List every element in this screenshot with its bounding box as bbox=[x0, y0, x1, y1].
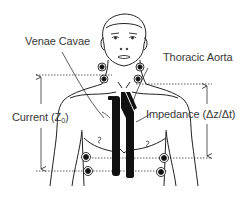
electrode-neck-left-upper bbox=[98, 63, 106, 71]
torso-illustration bbox=[0, 0, 248, 207]
venae-cavae-vessel bbox=[112, 96, 120, 176]
electrode-chest-right-upper bbox=[160, 154, 169, 163]
face-features bbox=[111, 33, 137, 59]
label-current: Current (Z0) bbox=[12, 112, 69, 124]
impedance-cardiography-diagram: Venae Cavae Thoracic Aorta Current (Z0) … bbox=[0, 0, 248, 207]
electrode-chest-right-lower bbox=[157, 168, 166, 177]
label-thoracic-aorta: Thoracic Aorta bbox=[163, 52, 233, 63]
label-current-text: Current (Z bbox=[12, 111, 61, 123]
label-leader-lines bbox=[62, 52, 150, 122]
label-current-close: ) bbox=[65, 111, 69, 123]
electrode-neck-right-lower bbox=[134, 75, 142, 83]
electrode-chest-left-lower bbox=[84, 167, 93, 176]
great-vessels bbox=[108, 92, 137, 178]
electrode-neck-left-lower bbox=[100, 75, 108, 83]
label-impedance: Impedance (Δz/Δt) bbox=[146, 109, 235, 120]
electrode-chest-left-upper bbox=[82, 153, 91, 162]
electrode-neck-right-upper bbox=[136, 63, 144, 71]
label-venae-cavae: Venae Cavae bbox=[25, 36, 90, 47]
